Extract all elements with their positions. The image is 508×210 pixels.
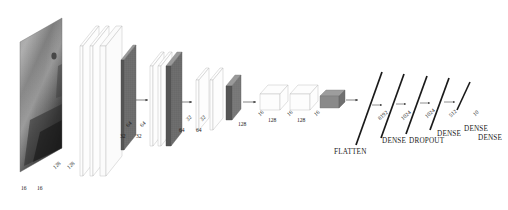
dense-3-line xyxy=(457,82,470,110)
conv-block-3 xyxy=(100,26,122,176)
dim-label-3: 32 xyxy=(136,134,142,140)
dim-label-6: 128 xyxy=(238,122,246,128)
dim-label-4: 64 xyxy=(179,128,185,134)
cnn-architecture-diagram xyxy=(0,0,508,210)
stage-label-5: DENSE xyxy=(478,135,502,142)
stage-label-3: DENSE xyxy=(437,131,461,138)
pool-3 xyxy=(226,75,241,120)
input-image xyxy=(20,18,62,172)
dense-2-line xyxy=(430,78,449,130)
dim-label-5: 64 xyxy=(196,128,202,134)
dim-label-2: 32 xyxy=(120,134,126,140)
dim-label-0: 16 xyxy=(21,186,27,192)
conv-block-7 xyxy=(210,68,223,130)
pool-4 xyxy=(320,90,345,108)
dim-label-7: 128 xyxy=(268,118,276,124)
conv-block-8 xyxy=(260,85,288,110)
dim-label-8: 128 xyxy=(297,118,305,124)
dropout-line xyxy=(406,76,427,134)
flatten-layer-line xyxy=(356,72,382,145)
conv-block-9 xyxy=(290,85,318,110)
dim-label-1: 16 xyxy=(37,186,43,192)
stage-label-4: DENSE xyxy=(464,126,488,133)
dense-1-line xyxy=(381,74,404,138)
stage-label-2: DROPOUT xyxy=(409,138,444,145)
stage-label-0: FLATTEN xyxy=(334,149,367,156)
stage-label-1: DENSE xyxy=(382,138,406,145)
